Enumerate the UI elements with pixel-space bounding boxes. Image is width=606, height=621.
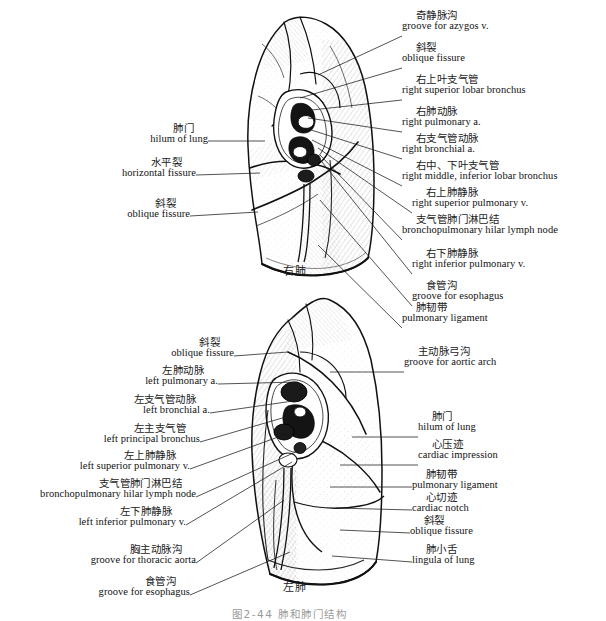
annotation-label: 左主支气管left principal bronchus	[104, 423, 200, 444]
leader-line	[305, 128, 402, 159]
annotation-label: 肺韧带pulmonary ligament	[412, 469, 498, 490]
annotation-label-en: oblique fissure	[127, 209, 190, 220]
annotation-label: 肺门hilum of lung	[150, 123, 208, 144]
annotation-label: 右上叶支气管right superior lobar bronchus	[402, 74, 526, 95]
annotation-label-en: groove for esophagus	[99, 587, 190, 598]
leader-line	[320, 155, 402, 240]
annotation-label: 心压迹cardiac impression	[418, 439, 498, 460]
annotation-label-en: left superior pulmonary v.	[80, 461, 190, 472]
annotation-label: 右中、下叶支气管right middle, inferior lobar bro…	[402, 160, 558, 181]
annotation-label: 斜裂oblique fissure	[127, 198, 190, 219]
leader-line	[190, 212, 258, 216]
annotation-label: 食管沟groove for esophagus	[99, 576, 190, 597]
annotation-label: 斜裂oblique fissure	[410, 515, 473, 536]
leader-line	[322, 162, 412, 274]
annotation-label-en: groove for thoracic aorta	[91, 555, 196, 566]
leader-line	[190, 552, 290, 595]
annotation-label-en: right superior lobar bronchus	[402, 85, 526, 96]
left-hilum	[263, 352, 346, 570]
left-lung-body	[248, 294, 388, 590]
left-oblique-fissure-line	[288, 352, 366, 434]
annotation-label-en: oblique fissure	[402, 53, 465, 64]
annotation-label-en: left bronchial a.	[134, 405, 210, 416]
annotation-label-en: right superior pulmonary v.	[412, 198, 528, 209]
hilar-lymph-node	[308, 154, 321, 166]
annotation-label: 右肺动脉right pulmonary a.	[402, 106, 481, 127]
annotation-label: 主动脉弓沟groove for aortic arch	[404, 346, 496, 367]
annotation-label-en: oblique fissure	[410, 526, 473, 537]
annotation-label-en: right middle, inferior lobar bronchus	[402, 171, 558, 182]
annotation-label: 肺门hilum of lung	[418, 411, 476, 432]
leader-line	[190, 432, 292, 469]
annotation-label: 胸主动脉沟groove for thoracic aorta	[91, 544, 196, 565]
right-lung-body	[246, 14, 380, 278]
annotation-label-en: groove for azygos v.	[402, 21, 489, 32]
annotation-label-en: left principal bronchus	[104, 434, 200, 445]
leader-line	[318, 148, 412, 213]
leader-line	[186, 462, 292, 525]
annotation-label: 支气管肺门淋巴结bronchopulmonary hilar lymph nod…	[402, 214, 558, 235]
annotation-label: 心切迹cardiac notch	[412, 492, 469, 513]
annotation-label-en: oblique fissure	[171, 348, 234, 359]
annotation-label-en: right inferior pulmonary v.	[412, 259, 525, 270]
annotation-label: 肺韧带pulmonary ligament	[402, 302, 488, 323]
annotation-label-en: right pulmonary a.	[402, 117, 481, 128]
leader-line	[340, 530, 410, 533]
leader-line	[200, 414, 296, 442]
leader-line	[318, 245, 402, 328]
annotation-label-en: pulmonary ligament	[402, 313, 488, 324]
leader-line	[308, 118, 402, 132]
annotation-label-en: cardiac impression	[418, 450, 498, 461]
leader-line	[300, 68, 402, 98]
annotation-label: 左支气管动脉left bronchial a.	[134, 394, 210, 415]
annotation-label-en: pulmonary ligament	[412, 480, 498, 491]
leader-line	[320, 200, 412, 306]
leader-lines	[186, 36, 418, 595]
annotation-label: 左下肺静脉left inferior pulmonary v.	[79, 506, 186, 527]
annotation-label: 食管沟groove for esophagus	[412, 280, 503, 301]
annotation-label: 水平裂horizontal fissure	[122, 157, 196, 178]
annotation-label: 斜裂oblique fissure	[171, 337, 234, 358]
leader-line	[336, 508, 412, 510]
annotation-label-en: groove for esophagus	[412, 291, 503, 302]
annotation-label-en: cardiac notch	[412, 503, 469, 514]
annotation-label-en: lingula of lung	[412, 555, 475, 566]
figure-caption: 图2-44 肺和肺门结构	[232, 606, 347, 621]
leader-line	[312, 100, 402, 110]
annotation-label-en: hilum of lung	[418, 422, 476, 433]
annotation-label: 斜裂oblique fissure	[402, 42, 465, 63]
leader-line	[196, 450, 300, 497]
annotation-label: 左肺动脉left pulmonary a.	[145, 365, 218, 386]
left-pulmonary-artery	[281, 382, 307, 402]
leader-line	[210, 400, 300, 413]
leader-line	[218, 382, 298, 384]
leader-line	[332, 556, 412, 562]
horizontal-fissure-line	[250, 161, 340, 174]
annotation-label: 右支气管动脉right bronchial a.	[402, 133, 478, 154]
lower-panel-caption: 左肺	[283, 578, 307, 594]
annotation-label: 支气管肺门淋巴结bronchopulmonary hilar lymph nod…	[40, 478, 196, 499]
annotation-label: 左上肺静脉left superior pulmonary v.	[80, 450, 190, 471]
annotation-label-en: groove for aortic arch	[404, 357, 496, 368]
annotation-label: 右上肺静脉right superior pulmonary v.	[412, 187, 528, 208]
annotation-label: 奇静脉沟groove for azygos v.	[402, 10, 489, 31]
annotation-label-en: left inferior pulmonary v.	[79, 517, 186, 528]
upper-panel-caption: 右肺	[283, 262, 307, 278]
annotation-label-en: hilum of lung	[150, 134, 208, 145]
annotation-label: 肺小舌lingula of lung	[412, 544, 475, 565]
annotation-label-en: left pulmonary a.	[145, 376, 218, 387]
annotation-label-en: horizontal fissure	[122, 168, 196, 179]
oblique-fissure-line	[252, 142, 358, 210]
leader-line	[234, 352, 288, 356]
right-hilum	[274, 72, 340, 262]
leader-line	[312, 140, 402, 186]
leader-line	[196, 173, 260, 175]
annotation-label-en: bronchopulmonary hilar lymph node	[402, 225, 558, 236]
leader-line	[318, 36, 402, 75]
annotation-label-en: right bronchial a.	[402, 144, 478, 155]
annotation-label: 右下肺静脉right inferior pulmonary v.	[412, 248, 525, 269]
annotation-label-en: bronchopulmonary hilar lymph node	[40, 489, 196, 500]
leader-line	[196, 500, 284, 563]
